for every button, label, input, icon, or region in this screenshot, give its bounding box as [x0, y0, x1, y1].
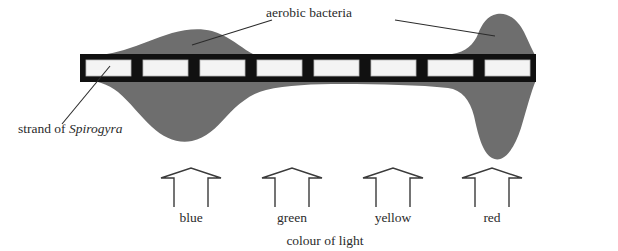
filament-cell	[314, 60, 359, 76]
label-strand-prefix: strand of	[18, 121, 69, 136]
aerobic-bacteria-cloud	[80, 14, 536, 160]
filament-cell	[200, 60, 245, 76]
leader-line-bacteria-right	[395, 20, 495, 36]
arrow-label-yellow: yellow	[375, 210, 412, 225]
arrow-label-red: red	[483, 210, 500, 225]
light-arrow-green[interactable]: green	[262, 168, 322, 225]
spirogyra-filament	[80, 54, 536, 82]
filament-cell	[371, 60, 416, 76]
arrow-glyph-red	[462, 168, 522, 207]
filament-cell	[485, 60, 530, 76]
arrow-label-green: green	[277, 210, 307, 225]
filament-cell	[257, 60, 302, 76]
light-arrow-blue[interactable]: blue	[161, 168, 221, 225]
engelmann-diagram: aerobic bacteria strand of Spirogyra blu…	[0, 0, 618, 251]
label-strand-of-spirogyra: strand of Spirogyra	[18, 121, 123, 136]
light-arrow-yellow[interactable]: yellow	[363, 168, 423, 225]
label-spirogyra-organism: Spirogyra	[69, 121, 123, 136]
filament-cell	[428, 60, 473, 76]
diagram-canvas: aerobic bacteria strand of Spirogyra blu…	[0, 0, 618, 251]
arrow-glyph-yellow	[363, 168, 423, 207]
filament-cell	[143, 60, 188, 76]
arrow-glyph-green	[262, 168, 322, 207]
arrow-label-blue: blue	[179, 210, 202, 225]
label-colour-of-light: colour of light	[286, 233, 363, 248]
arrow-glyph-blue	[161, 168, 221, 207]
label-aerobic-bacteria: aerobic bacteria	[266, 5, 352, 20]
light-arrow-red[interactable]: red	[462, 168, 522, 225]
bacteria-cloud-lower	[80, 79, 536, 159]
